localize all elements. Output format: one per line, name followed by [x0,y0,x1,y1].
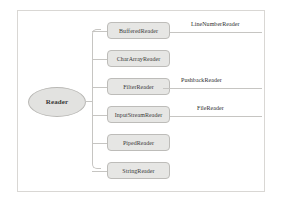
connector-trunk [92,29,101,169]
node-label-file-reader: FileReader [197,105,224,111]
node-label: CharArrayReader [117,56,160,62]
node-inputstream-reader: InputStreamReader [107,106,170,123]
connector-stub-piped-reader [92,143,108,144]
node-label-pushback-reader: PushbackReader [181,77,222,83]
node-label-linenumber-reader: LineNumberReader [191,21,239,27]
root-node-reader: Reader [28,87,86,117]
node-chararray-reader: CharArrayReader [107,50,170,67]
node-label: InputStreamReader [115,112,163,118]
connector-stub-string-reader [92,171,108,172]
connector-stub-filter-reader [92,87,108,88]
root-node-label: Reader [46,98,68,106]
class-hierarchy-diagram: Reader BufferedReader CharArrayReader Fi… [0,0,281,204]
node-label: StringReader [122,168,154,174]
node-label: PipedReader [123,140,154,146]
connector-line-file-reader [170,116,262,117]
connector-stub-buffered-reader [92,31,108,32]
connector-line-linenumber-reader [170,32,262,33]
node-string-reader: StringReader [107,162,170,179]
node-buffered-reader: BufferedReader [107,22,170,39]
connector-stub-chararray-reader [92,59,108,60]
node-label: BufferedReader [119,28,158,34]
node-filter-reader: FilterReader [107,78,170,95]
node-label: FilterReader [123,84,154,90]
connector-stub-inputstream-reader [92,115,108,116]
connector-line-pushback-reader [163,88,262,89]
node-piped-reader: PipedReader [107,134,170,151]
